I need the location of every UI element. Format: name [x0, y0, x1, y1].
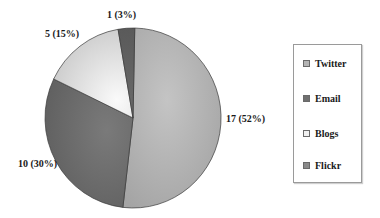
- legend-swatch-flickr: [303, 162, 310, 169]
- legend-item-flickr: Flickr: [303, 158, 341, 172]
- slice-twitter: [123, 28, 221, 208]
- legend-label: Flickr: [315, 160, 341, 171]
- legend-item-blogs: Blogs: [303, 126, 338, 140]
- slice-label-blogs: 5 (15%): [45, 28, 79, 39]
- pie-slices: [45, 28, 221, 208]
- legend-item-twitter: Twitter: [303, 56, 346, 70]
- legend-label: Email: [315, 93, 341, 104]
- legend-label: Blogs: [315, 128, 338, 139]
- slice-label-flickr: 1 (3%): [107, 9, 136, 20]
- legend-swatch-twitter: [303, 60, 310, 67]
- chart-legend: Twitter Email Blogs Flickr: [293, 44, 362, 183]
- legend-swatch-blogs: [303, 130, 310, 137]
- slice-label-email: 10 (30%): [18, 158, 57, 169]
- legend-item-email: Email: [303, 91, 341, 105]
- slice-label-twitter: 17 (52%): [226, 113, 265, 124]
- legend-label: Twitter: [315, 58, 346, 69]
- legend-swatch-email: [303, 95, 310, 102]
